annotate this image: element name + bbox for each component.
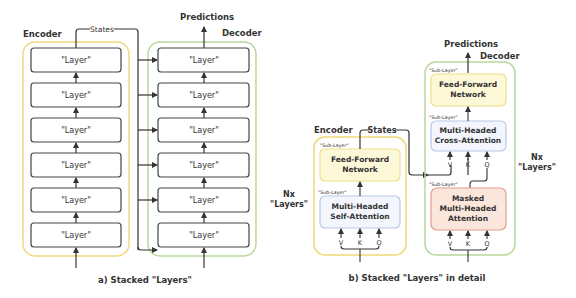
detail-decoder-label: Decoder [480, 51, 521, 61]
encoder-layers-label: "Layers" [270, 200, 308, 209]
caption-a: a) Stacked "Layers" [98, 275, 192, 285]
decoder-ffn-line1: Feed-Forward [439, 80, 497, 89]
decoder-ffn-line2: Network [450, 90, 487, 99]
encoder-attn-sublayer-tag: "Sub-Layer" [318, 190, 347, 195]
cross-input-v: V [448, 161, 453, 169]
encoder-attn-line1: Multi-Headed [332, 202, 389, 211]
decoder-cross-sublayer-tag: "Sub-Layer" [429, 115, 458, 120]
encoder-layer-2: "Layer" [61, 91, 91, 100]
decoder-layer-5: "Layer" [189, 196, 219, 205]
masked-line3: Attention [448, 214, 488, 223]
masked-line2: Multi-Headed [440, 204, 497, 213]
decoder-label: Decoder [222, 28, 263, 38]
encoder-ffn-sublayer-tag: "Sub-Layer" [320, 143, 349, 148]
cross-input-q: Q [484, 161, 489, 169]
decoder-layer-2: "Layer" [189, 91, 219, 100]
masked-line1: Masked [452, 194, 484, 203]
encoder-attn-line2: Self-Attention [330, 212, 389, 221]
decoder-masked-sublayer-tag: "Sub-Layer" [429, 182, 458, 187]
predictions-label: Predictions [180, 12, 234, 22]
decoder-layers-label: "Layers" [518, 163, 556, 172]
cross-input-k: K [466, 161, 471, 169]
decoder-cross-line1: Multi-Headed [440, 126, 497, 135]
panel-b: Encoder Nx "Layers" "Sub-Layer" "Sub-Lay… [270, 39, 556, 283]
states-label: States [90, 25, 114, 34]
detail-states-label: States [368, 126, 397, 135]
detail-encoder-label: Encoder [314, 125, 354, 135]
decoder-layer-1: "Layer" [189, 56, 219, 65]
encoder-layer-6: "Layer" [61, 231, 91, 240]
masked-input-v: V [448, 240, 453, 248]
encoder-layer-5: "Layer" [61, 196, 91, 205]
encoder-layer-4: "Layer" [61, 161, 91, 170]
decoder-layer-6: "Layer" [189, 231, 219, 240]
encoder-ffn-line2: Network [342, 165, 379, 174]
encoder-input-q: Q [376, 239, 381, 247]
decoder-layer-3: "Layer" [189, 126, 219, 135]
masked-input-k: K [466, 240, 471, 248]
panel-a: Encoder Decoder Predictions "Layer" "Lay… [23, 12, 263, 285]
encoder-label: Encoder [23, 29, 63, 39]
decoder-nx-label: Nx [531, 153, 544, 162]
caption-b: b) Stacked "Layers" in detail [349, 273, 486, 283]
encoder-layer-1: "Layer" [61, 56, 91, 65]
encoder-input-v: V [339, 239, 344, 247]
masked-input-q: Q [484, 240, 489, 248]
decoder-layer-4: "Layer" [189, 161, 219, 170]
encoder-nx-label: Nx [283, 190, 296, 199]
detail-predictions-label: Predictions [444, 39, 498, 49]
decoder-cross-line2: Cross-Attention [435, 136, 501, 145]
transformer-diagram: Encoder Decoder Predictions "Layer" "Lay… [0, 0, 576, 298]
decoder-ffn-sublayer-tag: "Sub-Layer" [429, 68, 458, 73]
encoder-input-k: K [358, 239, 363, 247]
encoder-ffn-line1: Feed-Forward [331, 155, 389, 164]
encoder-layer-3: "Layer" [61, 126, 91, 135]
